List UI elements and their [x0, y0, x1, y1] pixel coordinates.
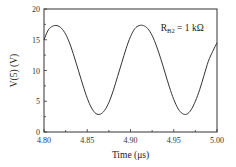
x-tick-label: 5.00	[210, 136, 224, 145]
x-tick-label: 4.85	[80, 136, 94, 145]
x-axis-title: Time (μs)	[112, 150, 149, 161]
series-line-v5	[44, 25, 217, 114]
x-tick-label: 4.90	[124, 136, 138, 145]
y-tick-label: 0	[36, 128, 40, 137]
y-tick-label: 20	[32, 5, 40, 14]
plot-area: 4.804.854.904.955.0005101520Time (μs)V(5…	[9, 5, 224, 161]
chart: 4.804.854.904.955.0005101520Time (μs)V(5…	[0, 0, 236, 167]
y-tick-label: 10	[32, 67, 40, 76]
x-tick-label: 4.95	[167, 136, 181, 145]
y-axis-title: V(5) (V)	[9, 54, 20, 88]
x-tick-label: 4.80	[37, 136, 51, 145]
annotation-rb2: RB2 = 1 kΩ	[161, 23, 204, 35]
y-tick-label: 15	[32, 36, 40, 45]
y-tick-label: 5	[36, 97, 40, 106]
